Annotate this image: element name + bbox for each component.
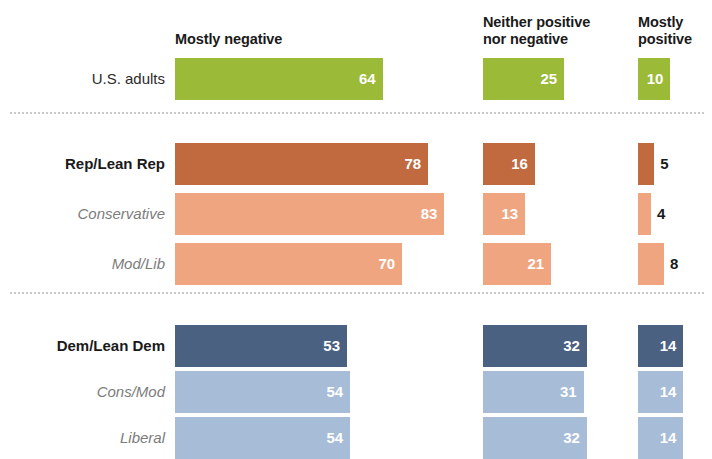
bar-mostly-positive: 8	[638, 243, 664, 285]
bar-mostly-negative: 54	[175, 417, 350, 459]
row-label: Mod/Lib	[0, 243, 165, 285]
bar-value-label: 54	[327, 371, 344, 413]
bar-mostly-negative: 64	[175, 58, 383, 100]
bar-neither: 13	[483, 193, 525, 235]
group-divider-bottom	[10, 292, 704, 295]
chart-row: Dem/Lean Dem533214	[0, 325, 712, 367]
column-header-positive-line1: Mostly	[638, 14, 692, 31]
bar-mostly-positive: 14	[638, 325, 683, 367]
bar-value-label: 14	[660, 325, 677, 367]
bar-neither: 32	[483, 325, 587, 367]
bar-value-label: 16	[511, 143, 528, 185]
chart-row: Conservative83134	[0, 193, 712, 235]
bar-value-label: 31	[560, 371, 577, 413]
bar-mostly-positive: 5	[638, 143, 654, 185]
bar-value-label: 14	[660, 417, 677, 459]
row-label: Liberal	[0, 417, 165, 459]
bar-value-label: 21	[527, 243, 544, 285]
bar-value-label: 25	[540, 58, 557, 100]
bar-value-label: 32	[563, 325, 580, 367]
bar-mostly-positive: 10	[638, 58, 670, 100]
bar-mostly-negative: 54	[175, 371, 350, 413]
bar-neither: 16	[483, 143, 535, 185]
bar-value-label: 14	[660, 371, 677, 413]
column-header-mostly-negative: Mostly negative	[175, 31, 282, 48]
bar-value-label: 83	[421, 193, 438, 235]
bar-value-label: 8	[670, 243, 678, 285]
bar-mostly-negative: 83	[175, 193, 444, 235]
bar-value-label: 13	[501, 193, 518, 235]
bar-value-label: 4	[657, 193, 665, 235]
chart-row: U.S. adults642510	[0, 58, 712, 100]
bar-value-label: 53	[323, 325, 340, 367]
column-header-neither-line2: nor negative	[483, 31, 590, 48]
row-label: Rep/Lean Rep	[0, 143, 165, 185]
bar-neither: 31	[483, 371, 584, 413]
bar-mostly-positive: 14	[638, 417, 683, 459]
bar-mostly-negative: 78	[175, 143, 428, 185]
row-label: Cons/Mod	[0, 371, 165, 413]
bar-value-label: 70	[378, 243, 395, 285]
bar-neither: 32	[483, 417, 587, 459]
column-header-neither-line1: Neither positive	[483, 14, 590, 31]
bar-value-label: 5	[660, 143, 668, 185]
row-label: Dem/Lean Dem	[0, 325, 165, 367]
row-label: Conservative	[0, 193, 165, 235]
bar-value-label: 10	[647, 58, 664, 100]
row-label: U.S. adults	[0, 58, 165, 100]
chart-row: Liberal543214	[0, 417, 712, 459]
bar-mostly-positive: 14	[638, 371, 683, 413]
chart-row: Rep/Lean Rep78165	[0, 143, 712, 185]
bar-mostly-negative: 53	[175, 325, 347, 367]
bar-value-label: 78	[404, 143, 421, 185]
column-header-neither: Neither positive nor negative	[483, 14, 590, 48]
chart-row: Cons/Mod543114	[0, 371, 712, 413]
bar-value-label: 32	[563, 417, 580, 459]
group-divider-top	[10, 112, 704, 115]
column-header-positive-line2: positive	[638, 31, 692, 48]
bar-value-label: 54	[327, 417, 344, 459]
bar-mostly-positive: 4	[638, 193, 651, 235]
bar-neither: 21	[483, 243, 551, 285]
chart-row: Mod/Lib70218	[0, 243, 712, 285]
bar-mostly-negative: 70	[175, 243, 402, 285]
bar-neither: 25	[483, 58, 564, 100]
bar-value-label: 64	[359, 58, 376, 100]
column-header-mostly-positive: Mostly positive	[638, 14, 692, 48]
